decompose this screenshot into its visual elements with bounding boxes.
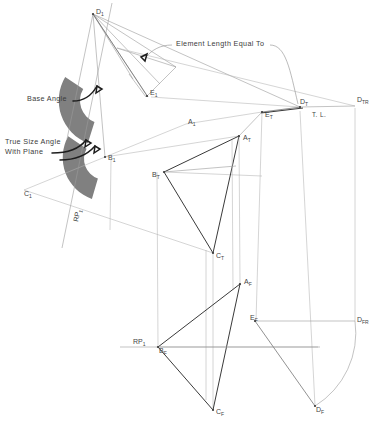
true-size-angle-note-line2: With Plane: [5, 147, 43, 156]
point-CF-label: CF: [216, 408, 224, 417]
arrow-base-angle-tip: [96, 86, 102, 93]
point-ET-marker: [261, 111, 263, 113]
aux-plane-edge-lower: [151, 97, 300, 107]
point-DT-label: DT: [300, 98, 308, 107]
point-CT-label: CT: [216, 252, 224, 261]
point-DF-label: DF: [316, 406, 324, 415]
projection-lines: [110, 108, 355, 410]
aux-plane-edge-mid: [164, 172, 262, 176]
line-D1-to-B1: [93, 14, 105, 157]
line-DT-DTR: [300, 106, 355, 107]
projector-E: [256, 112, 262, 321]
point-CT-marker: [212, 252, 214, 254]
line-D1-to-fan-c: [93, 14, 133, 79]
point-ET-label: ET: [265, 111, 273, 120]
projector-aux-left: [110, 160, 111, 230]
arrow-element-tip: [141, 54, 147, 61]
point-BT-label: BT: [152, 171, 160, 180]
point-DTR-label: DTR: [357, 96, 369, 105]
point-B1-marker: [104, 156, 106, 158]
engineering-drawing-canvas: D1E1A1B1C1ATBTCTETDTDTRAFBFCFEFDFDFR RP1…: [0, 0, 390, 432]
base-angle-note: Base Angle: [27, 94, 67, 103]
reference-plane-labels-group: RP1RP1: [72, 208, 146, 347]
reference-plane-aux-label: RP1: [72, 208, 84, 222]
projector-D: [300, 111, 315, 406]
point-DT-marker: [299, 106, 301, 108]
point-C1-label: C1: [24, 190, 32, 199]
arc-DFR-to-DF: [315, 321, 356, 406]
aux-plane-edge-C1-bottom: [24, 190, 213, 253]
line-EF-DF: [255, 321, 315, 406]
top-view-triangle: [164, 136, 239, 253]
projector-B: [157, 172, 158, 347]
base-angle-wedge: [59, 77, 95, 143]
aux-triangle-edge-3: [129, 74, 146, 97]
point-BT-marker: [163, 171, 165, 173]
reference-plane-front-label: RP1: [133, 338, 146, 347]
point-markers-group: [92, 13, 316, 411]
top-view: [164, 106, 355, 253]
point-AT-label: AT: [243, 134, 251, 143]
line-D1-to-apex-edge-a: [93, 14, 176, 67]
point-AT-marker: [238, 135, 240, 137]
true-length-note: T. L.: [312, 111, 326, 118]
point-EF-label: EF: [250, 314, 258, 323]
line-D1-to-apex-edge-b: [93, 14, 160, 84]
annotation-labels-group: Element Length Equal ToBase AngleTrue Si…: [5, 39, 326, 156]
point-BF-label: BF: [159, 347, 167, 356]
point-AF-label: AF: [244, 278, 252, 287]
line-AT-ET: [239, 112, 262, 136]
point-DFR-label: DFR: [357, 316, 369, 325]
drawing-sheet: D1E1A1B1C1ATBTCTETDTDTRAFBFCFEFDFDFR RP1…: [0, 0, 390, 432]
point-A1-label: A1: [188, 118, 196, 127]
true-size-angle-note-line1: True Size Angle: [5, 137, 61, 146]
point-E1-marker: [146, 95, 148, 97]
arrow-tsa-tip-a: [85, 140, 91, 147]
leader-element-length-left: [146, 45, 172, 57]
point-D1-marker: [92, 13, 94, 15]
arrow-tsa-tip-b: [94, 146, 100, 153]
point-CF-marker: [212, 409, 214, 411]
aux-plane-edge-A1-right: [186, 112, 262, 124]
point-AF-marker: [239, 283, 241, 285]
front-view: [120, 284, 356, 410]
element-length-note: Element Length Equal To: [176, 39, 264, 48]
aux-plane-edge-BT-band: [105, 136, 239, 157]
projector-A: [239, 136, 240, 284]
aux-plane-edge-A1: [105, 124, 186, 157]
